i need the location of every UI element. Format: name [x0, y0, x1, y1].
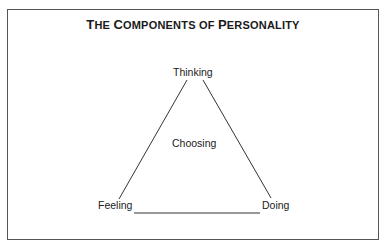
label-feeling: Feeling [98, 199, 132, 211]
label-choosing: Choosing [172, 137, 216, 149]
label-doing: Doing [262, 199, 289, 211]
label-thinking: Thinking [173, 66, 213, 78]
triangle-lines [0, 0, 386, 249]
